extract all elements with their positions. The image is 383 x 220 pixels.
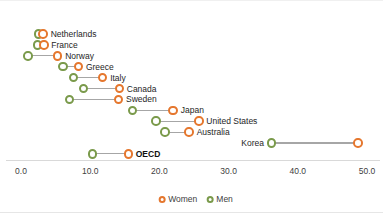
women-marker: [124, 149, 134, 159]
country-label: Australia: [197, 127, 230, 137]
women-marker: [114, 95, 124, 105]
country-label: Canada: [127, 84, 157, 94]
men-marker: [79, 84, 89, 94]
country-label: France: [51, 40, 77, 50]
country-label: Japan: [181, 105, 204, 115]
x-axis-tick-label: 30.0: [212, 166, 246, 176]
connector-line: [272, 142, 359, 143]
bottom-divider: [0, 212, 383, 213]
women-swatch-icon: [158, 196, 165, 203]
x-axis-line: [6, 160, 380, 161]
legend-label-women: Women: [168, 194, 197, 204]
men-marker: [151, 116, 161, 126]
men-marker: [160, 127, 170, 137]
men-marker: [69, 73, 79, 83]
country-label: Sweden: [126, 94, 157, 104]
plot-area: NetherlandsFranceNorwayGreeceItalyCanada…: [0, 1, 383, 161]
women-marker: [53, 51, 63, 61]
men-swatch-icon: [206, 196, 213, 203]
connector-line: [92, 153, 128, 154]
women-marker: [74, 62, 84, 72]
women-marker: [168, 106, 178, 116]
men-marker: [88, 149, 98, 159]
women-marker: [353, 138, 363, 148]
women-marker: [39, 40, 49, 50]
country-label: Netherlands: [51, 29, 97, 39]
x-axis-tick-label: 20.0: [142, 166, 176, 176]
legend-item-women: Women: [158, 194, 197, 204]
men-marker: [128, 106, 138, 116]
connector-line: [132, 110, 173, 111]
men-marker: [23, 51, 33, 61]
men-marker: [58, 62, 68, 72]
country-label: Greece: [86, 62, 114, 72]
x-axis-tick-label: 40.0: [281, 166, 315, 176]
women-marker: [98, 73, 108, 83]
country-label: Italy: [110, 73, 126, 83]
legend: Women Men: [158, 194, 233, 204]
country-label: OECD: [136, 149, 161, 159]
dumbbell-chart: NetherlandsFranceNorwayGreeceItalyCanada…: [0, 0, 383, 220]
connector-line: [69, 99, 118, 100]
legend-item-men: Men: [206, 194, 233, 204]
x-axis-tick-label: 0.0: [4, 166, 38, 176]
men-marker: [267, 138, 277, 148]
legend-label-men: Men: [216, 194, 233, 204]
x-axis-tick-label: 10.0: [73, 166, 107, 176]
country-label: Korea: [241, 138, 264, 148]
women-marker: [38, 29, 48, 39]
connector-line: [156, 121, 199, 122]
women-marker: [194, 116, 204, 126]
women-marker: [115, 84, 125, 94]
connector-line: [83, 88, 119, 89]
country-label: United States: [206, 116, 257, 126]
country-label: Norway: [65, 51, 94, 61]
men-marker: [65, 95, 75, 105]
women-marker: [184, 127, 194, 137]
x-axis-tick-label: 50.0: [350, 166, 383, 176]
